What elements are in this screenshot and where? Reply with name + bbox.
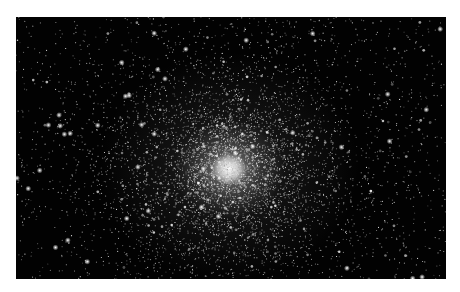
star-field [16,17,446,279]
star-cluster-photo [16,17,446,279]
